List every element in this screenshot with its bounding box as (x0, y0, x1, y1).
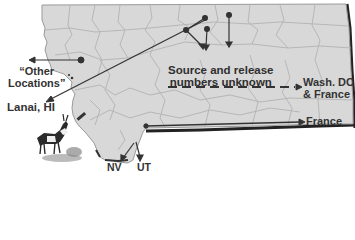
lanai-label: Lanai, HI (7, 101, 55, 113)
wash-dc-france-label: Wash. DC & France (303, 76, 354, 100)
source-line1: Source and release (168, 64, 273, 76)
source-line2: numbers unknown (168, 76, 273, 88)
other-locations-line1: “Other (8, 66, 65, 78)
other-locations-line2: Locations” (8, 78, 65, 90)
wash-line2: & France (303, 88, 354, 100)
ut-label: UT (137, 162, 151, 173)
nv-label: NV (107, 162, 122, 173)
france-label: France (306, 116, 342, 128)
wash-line1: Wash. DC (303, 76, 354, 88)
other-locations-label: “Other Locations” (8, 66, 65, 89)
source-unknown-label: Source and release numbers unknown (168, 64, 273, 88)
